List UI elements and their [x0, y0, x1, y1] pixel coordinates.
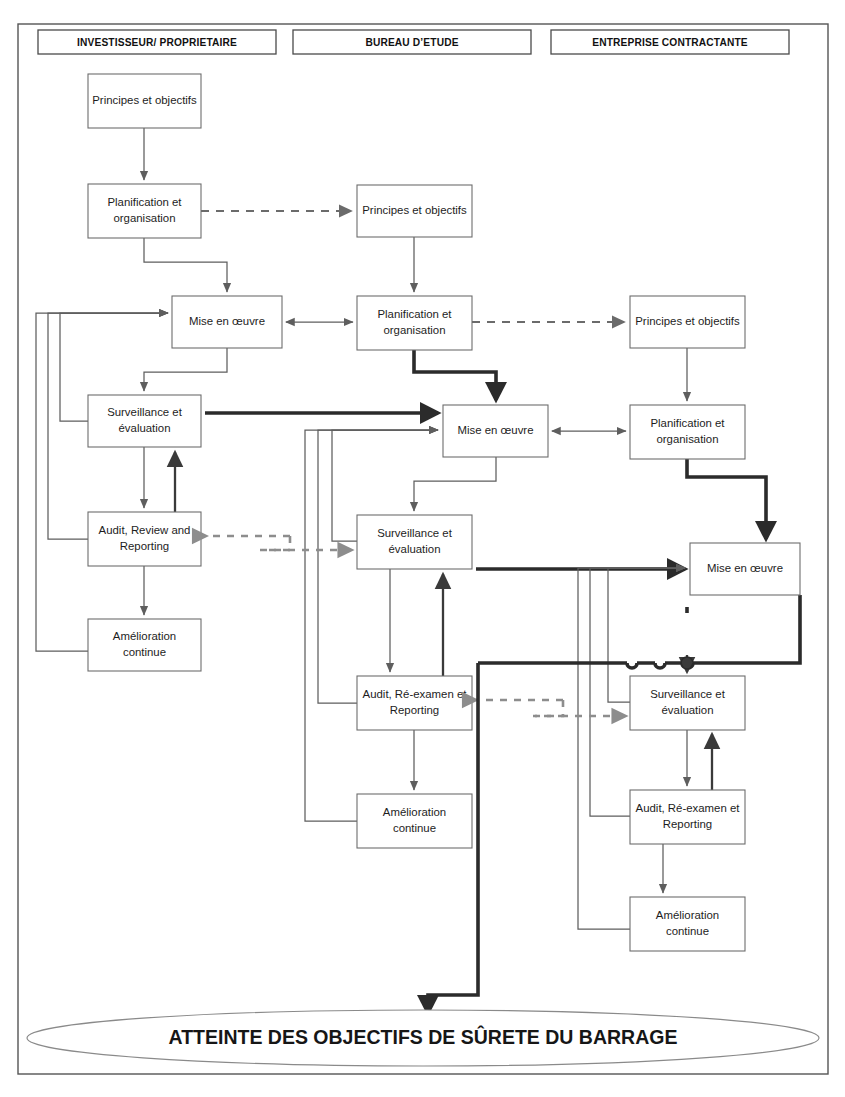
box-label: Amélioration [383, 806, 446, 818]
box-bur-principes[interactable]: Principes et objectifs [357, 185, 472, 237]
box-ent-amelioration[interactable]: Amélioration continue [630, 897, 745, 951]
box-inv-amelioration[interactable]: Amélioration continue [88, 619, 201, 671]
box-label: continue [666, 925, 709, 937]
goal-label: ATTEINTE DES OBJECTIFS DE SÛRETE DU BARR… [169, 1025, 678, 1048]
box-inv-surveillance[interactable]: Surveillance et évaluation [88, 395, 201, 447]
diagram-canvas: Principes et objectifs Planification et … [0, 0, 845, 1097]
box-bur-amelioration[interactable]: Amélioration continue [357, 794, 472, 848]
box-label: Mise en œuvre [707, 562, 783, 574]
header-entreprise[interactable]: ENTREPRISE CONTRACTANTE [551, 30, 789, 54]
box-label: évaluation [119, 422, 171, 434]
box-ent-planification[interactable]: Planification et organisation [630, 405, 745, 459]
box-ent-principes[interactable]: Principes et objectifs [630, 296, 745, 348]
flowchart-svg: Principes et objectifs Planification et … [0, 0, 845, 1097]
box-inv-planification[interactable]: Planification et organisation [88, 184, 201, 238]
box-label: Surveillance et [650, 688, 726, 700]
box-label: évaluation [389, 543, 441, 555]
box-ent-mise[interactable]: Mise en œuvre [690, 543, 800, 595]
box-label: Planification et [107, 196, 182, 208]
box-label: Surveillance et [377, 527, 453, 539]
box-label: Principes et objectifs [362, 204, 467, 216]
box-label: continue [393, 822, 436, 834]
header-investisseur[interactable]: INVESTISSEUR/ PROPRIETAIRE [38, 30, 276, 54]
box-inv-audit[interactable]: Audit, Review and Reporting [88, 512, 201, 566]
box-label: Audit, Ré-examen et [636, 802, 741, 814]
box-inv-mise[interactable]: Mise en œuvre [172, 296, 282, 348]
header-label: INVESTISSEUR/ PROPRIETAIRE [77, 37, 237, 48]
box-label: Planification et [377, 308, 452, 320]
box-label: Amélioration [113, 630, 176, 642]
box-label: Principes et objectifs [92, 94, 197, 106]
box-bur-mise[interactable]: Mise en œuvre [443, 405, 548, 457]
box-bur-audit[interactable]: Audit, Ré-examen et Reporting [357, 676, 472, 730]
box-label: Mise en œuvre [189, 315, 265, 327]
box-label: évaluation [662, 704, 714, 716]
box-label: organisation [383, 324, 445, 336]
box-label: Mise en œuvre [458, 424, 534, 436]
box-label: Audit, Review and [99, 524, 191, 536]
box-label: continue [123, 646, 166, 658]
box-bur-planification[interactable]: Planification et organisation [357, 296, 472, 350]
box-label: Audit, Ré-examen et [363, 688, 468, 700]
boxes-entreprise: Principes et objectifs Planification et … [630, 296, 800, 951]
box-label: Amélioration [656, 909, 719, 921]
box-label: Surveillance et [107, 406, 183, 418]
header-label: ENTREPRISE CONTRACTANTE [592, 37, 748, 48]
box-label: organisation [656, 433, 718, 445]
box-ent-surveillance[interactable]: Surveillance et évaluation [630, 676, 745, 730]
box-bur-surveillance[interactable]: Surveillance et évaluation [357, 515, 472, 569]
goal-node[interactable]: ATTEINTE DES OBJECTIFS DE SÛRETE DU BARR… [27, 1010, 819, 1066]
box-label: Reporting [663, 818, 712, 830]
box-label: Reporting [120, 540, 169, 552]
box-label: Planification et [650, 417, 725, 429]
box-ent-audit[interactable]: Audit, Ré-examen et Reporting [630, 790, 745, 844]
box-label: Reporting [390, 704, 439, 716]
column-headers: INVESTISSEUR/ PROPRIETAIRE BUREAU D’ETUD… [38, 30, 789, 54]
box-inv-principes[interactable]: Principes et objectifs [88, 74, 201, 128]
box-label: organisation [113, 212, 175, 224]
boxes-bureau: Principes et objectifs Planification et … [357, 185, 548, 848]
box-label: Principes et objectifs [635, 315, 740, 327]
header-bureau[interactable]: BUREAU D’ETUDE [293, 30, 531, 54]
header-label: BUREAU D’ETUDE [365, 37, 458, 48]
